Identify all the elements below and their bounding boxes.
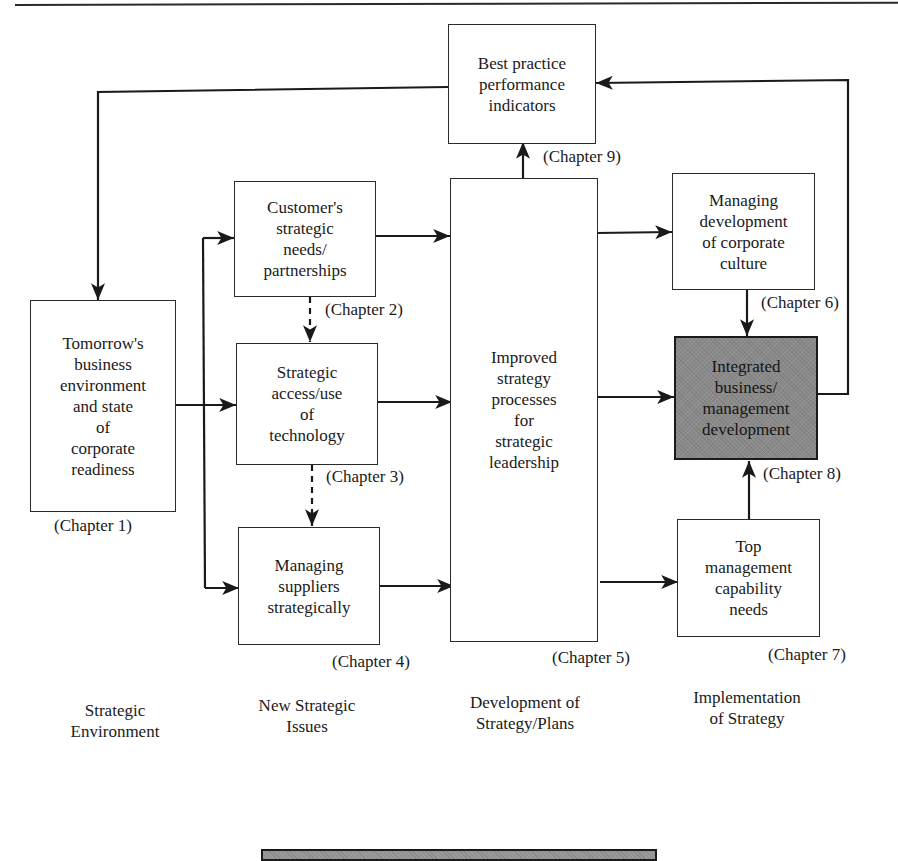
node-corporate-culture-label: Managing development of corporate cultur…	[700, 190, 788, 274]
node-integrated-development-label: Integrated business/ management developm…	[702, 356, 790, 440]
node-top-management-label: Top management capability needs	[705, 536, 792, 620]
column-new-strategic-issues: New Strategic Issues	[232, 695, 382, 737]
chapter-5-label: (Chapter 5)	[552, 648, 630, 668]
chapter-8-label: (Chapter 8)	[763, 464, 841, 484]
node-tomorrows-business-label: Tomorrow's business environment and stat…	[60, 333, 146, 480]
node-strategic-access: Strategic access/use of technology	[236, 343, 378, 465]
column-strategic-environment: Strategic Environment	[40, 700, 190, 742]
column-development-of-strategy: Development of Strategy/Plans	[450, 692, 600, 734]
node-managing-suppliers-label: Managing suppliers strategically	[267, 555, 350, 618]
node-customers-needs-label: Customer's strategic needs/ partnerships	[263, 197, 346, 281]
node-corporate-culture: Managing development of corporate cultur…	[672, 173, 815, 290]
node-best-practice: Best practice performance indicators	[448, 24, 596, 144]
chapter-4-label: (Chapter 4)	[332, 652, 410, 672]
column-implementation-of-strategy: Implementation of Strategy	[672, 687, 822, 729]
node-strategic-access-label: Strategic access/use of technology	[269, 362, 345, 446]
edge-branch-trunk	[203, 238, 205, 588]
chapter-1-label: (Chapter 1)	[54, 516, 132, 536]
bottom-shaded-bar	[261, 849, 657, 861]
chapter-2-label: (Chapter 2)	[325, 300, 403, 320]
edge-improved-to-culture	[596, 232, 672, 233]
node-customers-needs: Customer's strategic needs/ partnerships	[234, 181, 376, 297]
node-integrated-development: Integrated business/ management developm…	[674, 336, 818, 460]
chapter-3-label: (Chapter 3)	[326, 467, 404, 487]
node-top-management: Top management capability needs	[677, 519, 820, 637]
chapter-7-label: (Chapter 7)	[768, 645, 846, 665]
node-best-practice-label: Best practice performance indicators	[478, 53, 566, 116]
chapter-9-label: (Chapter 9)	[543, 147, 621, 167]
chapter-6-label: (Chapter 6)	[761, 293, 839, 313]
node-tomorrows-business: Tomorrow's business environment and stat…	[30, 300, 176, 512]
node-managing-suppliers: Managing suppliers strategically	[238, 527, 380, 645]
node-improved-strategy: Improved strategy processes for strategi…	[450, 178, 598, 642]
node-improved-strategy-label: Improved strategy processes for strategi…	[489, 347, 559, 473]
